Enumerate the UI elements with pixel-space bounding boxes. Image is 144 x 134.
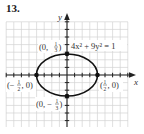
svg-text:1: 1 [55,41,58,47]
axes [6,17,132,127]
svg-text:): ) [60,99,63,109]
svg-text:2: 2 [104,86,107,92]
svg-text:, 0): , 0) [22,80,34,90]
svg-text:(0,: (0, [39,42,48,52]
point-top [65,52,70,57]
svg-text:1: 1 [18,79,21,85]
ellipse-plot: x y (0, 1 3 ) 4x² + 9y² = 1 (− 1 2 , 0) … [0,0,144,134]
label-left-point: (− 1 2 , 0) [7,79,33,92]
y-axis-label: y [57,12,62,22]
svg-text:3: 3 [56,105,59,111]
svg-text:(0, −: (0, − [36,99,52,109]
y-axis-arrow-icon [64,13,70,20]
point-bottom [65,94,70,99]
label-right-point: ( 1 2 , 0) [100,79,119,92]
svg-text:2: 2 [18,86,21,92]
x-axis-label: x [133,77,138,87]
svg-text:, 0): , 0) [108,80,120,90]
svg-text:): ) [59,42,62,52]
svg-text:3: 3 [55,47,58,53]
svg-text:1: 1 [56,98,59,104]
equation-label: 4x² + 9y² = 1 [71,41,115,51]
label-bottom-point: (0, − 1 3 ) [36,98,63,111]
point-left [34,73,39,78]
svg-text:(−: (− [7,80,15,90]
point-right [95,73,100,78]
svg-text:1: 1 [104,79,107,85]
